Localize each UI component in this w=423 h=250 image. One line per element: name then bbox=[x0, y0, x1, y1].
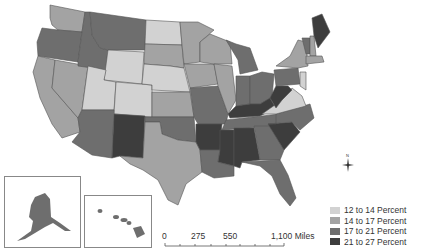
scale-bar: 0 275 550 1,100 Miles bbox=[160, 231, 325, 250]
alaska-inset bbox=[4, 176, 81, 248]
state-wy bbox=[104, 50, 144, 84]
state-wi bbox=[200, 34, 232, 64]
state-ia bbox=[184, 64, 218, 88]
scale-bar-ruler bbox=[160, 231, 325, 250]
svg-text:N: N bbox=[346, 153, 349, 158]
state-ar bbox=[196, 124, 222, 150]
state-wa bbox=[50, 5, 85, 32]
compass-rose-icon: N bbox=[340, 152, 356, 174]
state-fl bbox=[242, 160, 296, 206]
legend-item: 14 to 17 Percent bbox=[330, 216, 406, 227]
state-co bbox=[114, 82, 152, 117]
legend-label: 17 to 21 Percent bbox=[344, 226, 406, 237]
alaska-shape bbox=[5, 177, 80, 247]
legend-label: 12 to 14 Percent bbox=[344, 205, 406, 216]
state-ma bbox=[306, 56, 324, 64]
legend-item: 17 to 21 Percent bbox=[330, 226, 406, 237]
state-nd bbox=[145, 20, 182, 45]
legend-label: 14 to 17 Percent bbox=[344, 216, 406, 227]
legend: 12 to 14 Percent 14 to 17 Percent 17 to … bbox=[330, 205, 406, 247]
legend-swatch bbox=[330, 217, 340, 224]
state-ms bbox=[218, 130, 234, 166]
state-mt bbox=[90, 12, 146, 50]
state-in bbox=[236, 76, 250, 106]
legend-item: 12 to 14 Percent bbox=[330, 205, 406, 216]
hawaii-inset bbox=[84, 195, 152, 248]
hawaii-shape bbox=[85, 196, 151, 247]
legend-swatch bbox=[330, 238, 340, 245]
legend-swatch bbox=[330, 207, 340, 214]
state-nj bbox=[300, 72, 306, 90]
legend-label: 21 to 27 Percent bbox=[344, 237, 406, 248]
state-ny bbox=[276, 40, 308, 68]
legend-swatch bbox=[330, 228, 340, 235]
state-ks bbox=[152, 92, 194, 117]
legend-item: 21 to 27 Percent bbox=[330, 237, 406, 248]
state-pa bbox=[274, 68, 300, 86]
state-az bbox=[72, 110, 114, 158]
state-or bbox=[37, 28, 82, 62]
state-nm bbox=[112, 114, 145, 158]
